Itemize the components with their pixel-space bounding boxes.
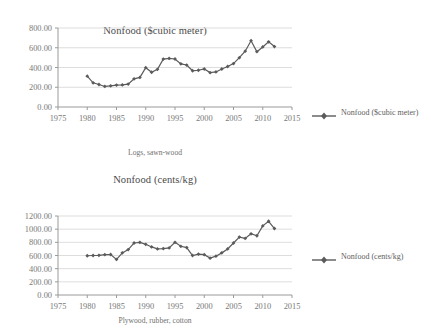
x-axis-title: Plywood, rubber, cotton xyxy=(0,316,310,325)
chart-legend: Nonfood (cents/kg) xyxy=(311,251,403,261)
svg-text:600.00: 600.00 xyxy=(29,44,52,53)
svg-text:1980: 1980 xyxy=(79,302,96,311)
svg-text:2000: 2000 xyxy=(196,114,213,123)
legend-line-marker-icon xyxy=(311,251,337,261)
legend-label: Nonfood (cents/kg) xyxy=(341,252,403,261)
svg-text:1995: 1995 xyxy=(167,302,184,311)
svg-text:1985: 1985 xyxy=(108,114,125,123)
chart-title: Nonfood (cents/kg) xyxy=(0,174,310,185)
chart-panel-nonfood-cubic-meter: Nonfood ($cubic meter) 0.00200.00400.006… xyxy=(0,0,430,168)
svg-text:1990: 1990 xyxy=(137,302,154,311)
svg-text:200.00: 200.00 xyxy=(29,83,52,92)
svg-text:2005: 2005 xyxy=(225,302,242,311)
svg-text:1985: 1985 xyxy=(108,302,125,311)
svg-text:800.00: 800.00 xyxy=(29,238,52,247)
svg-text:2005: 2005 xyxy=(225,114,242,123)
svg-text:1980: 1980 xyxy=(79,114,96,123)
chart-plot-area: 0.00200.00400.00600.00800.001000.001200.… xyxy=(0,188,310,336)
svg-text:2010: 2010 xyxy=(254,302,271,311)
legend-line-marker-icon xyxy=(311,107,337,117)
legend-label: Nonfood ($cubic meter) xyxy=(341,108,418,117)
svg-text:1200.00: 1200.00 xyxy=(25,212,52,221)
svg-text:0.00: 0.00 xyxy=(37,103,52,112)
svg-text:1000.00: 1000.00 xyxy=(25,225,52,234)
svg-text:2015: 2015 xyxy=(284,302,301,311)
svg-text:1975: 1975 xyxy=(50,114,67,123)
svg-text:600.00: 600.00 xyxy=(29,252,52,261)
svg-text:0.00: 0.00 xyxy=(37,291,52,300)
svg-text:800.00: 800.00 xyxy=(29,24,52,33)
svg-text:1975: 1975 xyxy=(50,302,67,311)
svg-text:2015: 2015 xyxy=(284,114,301,123)
svg-text:2000: 2000 xyxy=(196,302,213,311)
x-axis-title: Logs, sawn-wood xyxy=(0,148,310,157)
svg-text:400.00: 400.00 xyxy=(29,64,52,73)
chart-legend: Nonfood ($cubic meter) xyxy=(311,107,418,117)
svg-text:200.00: 200.00 xyxy=(29,278,52,287)
svg-text:400.00: 400.00 xyxy=(29,265,52,274)
svg-text:2010: 2010 xyxy=(254,114,271,123)
svg-text:1995: 1995 xyxy=(167,114,184,123)
svg-text:1990: 1990 xyxy=(137,114,154,123)
chart-plot-area: 0.00200.00400.00600.00800.00197519801985… xyxy=(0,0,310,148)
chart-panel-nonfood-cents-kg: Nonfood (cents/kg) 0.00200.00400.00600.0… xyxy=(0,168,430,336)
